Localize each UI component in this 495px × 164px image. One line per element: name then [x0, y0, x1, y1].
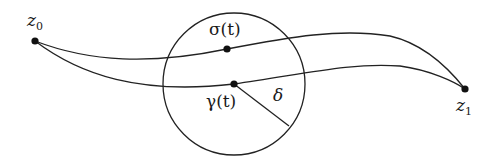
label-z0: z0: [27, 12, 43, 32]
label-gamma: γ(t): [206, 93, 236, 110]
point-sigma: [223, 45, 230, 52]
diagram: z0 z1 σ(t) γ(t) δ: [0, 0, 495, 164]
label-delta: δ: [273, 87, 283, 104]
diagram-canvas: [0, 0, 495, 164]
point-z0: [31, 37, 38, 44]
point-gamma: [230, 80, 237, 87]
curve-gamma: [35, 41, 465, 89]
label-sigma: σ(t): [209, 21, 241, 38]
point-z1: [461, 85, 468, 92]
curve-sigma: [35, 33, 465, 89]
label-z1: z1: [456, 97, 472, 117]
